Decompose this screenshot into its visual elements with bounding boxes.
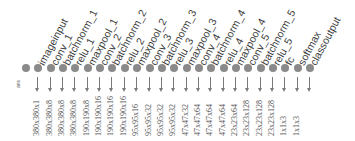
activation-size: 190x190x16 <box>120 96 128 136</box>
arrow-down-icon <box>149 77 150 89</box>
arrow-down-icon <box>272 77 273 89</box>
activation-size: 95x95x32 <box>157 104 165 136</box>
node-dot-icon[interactable] <box>96 64 104 72</box>
activation-size: 47x47x64 <box>206 104 214 136</box>
arrow-down-icon <box>99 77 100 89</box>
activation-size: 47x47x64 <box>219 104 227 136</box>
activation-size: 380x380x8 <box>70 100 78 136</box>
activation-size: 23x23x64 <box>231 104 239 136</box>
activation-size: 380x380x8 <box>46 100 54 136</box>
node-dot-icon[interactable] <box>121 64 129 72</box>
activation-size: 95x95x32 <box>145 104 153 136</box>
arrow-down-icon <box>284 77 285 89</box>
layer-node[interactable]: softmax1x1x3 <box>294 0 306 141</box>
layer-name: classoutput <box>308 15 342 67</box>
arrow-down-icon <box>223 77 224 89</box>
activation-size: 190x190x16 <box>95 96 103 136</box>
activation-size: 1x1x3 <box>280 116 288 136</box>
node-dot-icon[interactable] <box>281 64 289 72</box>
node-dot-icon[interactable] <box>220 64 228 72</box>
arrow-down-icon <box>186 77 187 89</box>
node-dot-icon[interactable] <box>84 64 92 72</box>
activation-size: 95x95x16 <box>132 104 140 136</box>
node-dot-icon[interactable] <box>108 64 116 72</box>
node-dot-icon[interactable] <box>294 64 302 72</box>
arrow-down-icon <box>37 77 38 89</box>
node-dot-icon[interactable] <box>306 64 314 72</box>
arrow-down-icon <box>50 77 51 89</box>
activation-size: 380x380x1 <box>33 100 41 136</box>
input-node[interactable] <box>22 0 34 141</box>
activation-size: 47x47x32 <box>182 104 190 136</box>
node-dot-icon[interactable] <box>158 64 166 72</box>
node-dot-icon[interactable] <box>257 64 265 72</box>
activation-size: 47x47x64 <box>194 104 202 136</box>
arrow-down-icon <box>111 77 112 89</box>
output-label: ans <box>15 80 21 88</box>
activation-size: 23x23x128 <box>243 100 251 136</box>
arrow-down-icon <box>173 77 174 89</box>
node-dot-icon[interactable] <box>183 64 191 72</box>
node-dot-icon[interactable] <box>34 64 42 72</box>
arrow-down-icon <box>136 77 137 89</box>
arrow-down-icon <box>74 77 75 89</box>
node-dot-icon[interactable] <box>269 64 277 72</box>
activation-size: 190x190x8 <box>83 100 91 136</box>
arrow-down-icon <box>247 77 248 89</box>
node-dot-icon[interactable] <box>59 64 67 72</box>
node-dot-icon[interactable] <box>232 64 240 72</box>
node-dot-icon[interactable] <box>195 64 203 72</box>
layer-node[interactable]: classoutput <box>306 0 318 141</box>
node-dot-icon[interactable] <box>71 64 79 72</box>
arrow-down-icon <box>235 77 236 89</box>
node-dot-icon[interactable] <box>22 64 30 72</box>
node-dot-icon[interactable] <box>133 64 141 72</box>
activation-size: 95x95x32 <box>169 104 177 136</box>
activation-size: 23x23x128 <box>268 100 276 136</box>
arrow-down-icon <box>161 77 162 89</box>
node-dot-icon[interactable] <box>207 64 215 72</box>
arrow-down-icon <box>62 77 63 89</box>
layer-graph-diagram: ans imageinput380x380x1conv_1380x380x8ba… <box>0 0 355 141</box>
activation-size: 380x380x8 <box>58 100 66 136</box>
node-dot-icon[interactable] <box>47 64 55 72</box>
activation-size: 190x190x16 <box>107 96 115 136</box>
node-dot-icon[interactable] <box>244 64 252 72</box>
arrow-down-icon <box>124 77 125 89</box>
activation-size: 1x1x3 <box>293 116 301 136</box>
arrow-down-icon <box>297 77 298 89</box>
arrow-down-icon <box>309 77 310 89</box>
arrow-down-icon <box>198 77 199 89</box>
arrow-down-icon <box>210 77 211 89</box>
node-dot-icon[interactable] <box>170 64 178 72</box>
activation-size: 23x23x128 <box>256 100 264 136</box>
arrow-down-icon <box>87 77 88 89</box>
node-dot-icon[interactable] <box>146 64 154 72</box>
arrow-down-icon <box>260 77 261 89</box>
